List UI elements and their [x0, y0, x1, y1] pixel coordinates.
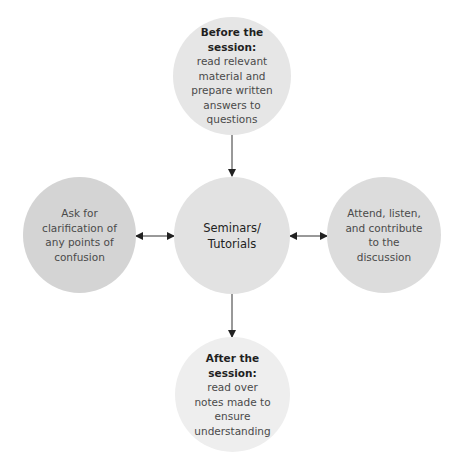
node-text-line: Attend, listen,	[347, 206, 421, 221]
node-text-line: notes made to	[194, 395, 270, 410]
node-heading: Before the session:	[183, 25, 281, 54]
node-text-line: confusion	[54, 250, 105, 265]
node-text-line: to the	[368, 235, 399, 250]
node-before-session: Before the session: read relevant materi…	[173, 17, 291, 135]
node-text-line: read relevant	[197, 54, 267, 69]
node-text-line: clarification of	[42, 221, 117, 236]
node-text-line: ensure	[215, 409, 251, 424]
node-text-line: prepare written	[191, 83, 272, 98]
node-text-line: discussion	[357, 250, 411, 265]
node-title-line: Tutorials	[208, 236, 256, 252]
node-text-line: understanding	[194, 424, 270, 439]
node-text-line: answers to	[203, 98, 260, 113]
node-attend-listen: Attend, listen, and contribute to the di…	[327, 177, 441, 293]
node-text-line: any points of	[45, 235, 113, 250]
node-seminars-tutorials: Seminars/ Tutorials	[174, 177, 290, 294]
node-text-line: material and	[199, 69, 266, 84]
node-heading: After the	[206, 351, 259, 366]
node-text-line: read over	[207, 380, 257, 395]
node-text-line: Ask for	[61, 206, 98, 221]
node-text-line: and contribute	[345, 221, 422, 236]
node-ask-clarification: Ask for clarification of any points of c…	[23, 177, 136, 293]
node-title-line: Seminars/	[203, 220, 261, 236]
node-heading: session:	[208, 366, 256, 381]
node-text-line: questions	[207, 112, 258, 127]
node-after-session: After the session: read over notes made …	[175, 337, 290, 452]
